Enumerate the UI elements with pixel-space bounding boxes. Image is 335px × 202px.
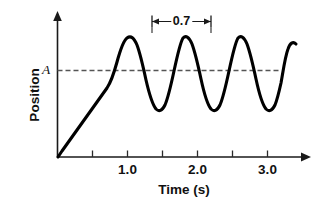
dimension-arrow-right: [204, 18, 211, 24]
x-axis-title: Time (s): [158, 183, 210, 197]
period-value-label: 0.7: [171, 15, 192, 28]
amplitude-label: A: [42, 63, 50, 77]
y-axis-arrowhead: [53, 11, 62, 21]
position-curve: [58, 37, 296, 157]
y-axis: [53, 11, 62, 157]
dimension-arrow-left: [152, 18, 159, 24]
x-tick-label-2: 2.0: [188, 163, 207, 177]
x-axis: [58, 153, 312, 162]
chart-plot-area: [0, 0, 335, 202]
y-axis-title: Position: [28, 68, 42, 121]
position-time-chart: 0.7 A 1.0 2.0 3.0 Time (s) Position: [0, 0, 335, 202]
x-axis-ticks: [93, 151, 268, 158]
x-tick-label-3: 3.0: [258, 163, 277, 177]
x-axis-arrowhead: [301, 153, 311, 162]
x-tick-label-1: 1.0: [118, 163, 137, 177]
